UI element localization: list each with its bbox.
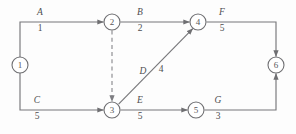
edge-A-activity-label: A [36,7,43,17]
edge-D-duration-label: 4 [159,64,164,74]
node-5[interactable]: 5 [188,102,204,118]
edge-B-duration-label: 2 [138,23,143,33]
edge-F-duration-label: 5 [220,23,225,33]
node-1[interactable]: 1 [12,57,28,73]
node-1-label: 1 [18,60,23,70]
edge-G-activity-label: G [215,95,222,105]
edge-D-activity-label: D [139,66,147,76]
node-4[interactable]: 4 [190,14,206,30]
edge-C-path [20,73,104,110]
network-diagram-canvas: 1 2 3 4 5 6 A 1 B 2 C 5 D 4 E [0,0,296,134]
edge-C-duration-label: 5 [35,111,40,121]
network-diagram-svg: 1 2 3 4 5 6 A 1 B 2 C 5 D 4 E [0,0,296,134]
node-3[interactable]: 3 [104,102,120,118]
edge-F-activity-label: F [218,7,225,17]
edge-A-duration-label: 1 [38,23,43,33]
node-2[interactable]: 2 [104,14,120,30]
edge-E-activity-label: E [136,95,143,105]
node-6-label: 6 [274,60,279,70]
node-2-label: 2 [110,17,115,27]
node-4-label: 4 [196,17,201,27]
node-6[interactable]: 6 [268,57,284,73]
node-5-label: 5 [194,105,199,115]
edge-C-activity-label: C [34,95,41,105]
edge-F-path [207,22,277,57]
edge-E-duration-label: 5 [138,111,143,121]
edge-G-duration-label: 3 [216,111,221,121]
edge-D-path [119,29,193,105]
node-3-label: 3 [110,105,115,115]
edge-B-activity-label: B [137,7,143,17]
edge-A-path [20,22,104,57]
